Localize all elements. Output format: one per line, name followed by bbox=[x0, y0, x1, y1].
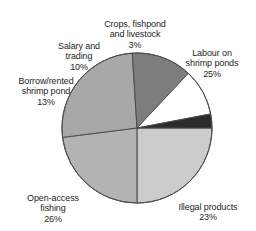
pie-label-value: 10% bbox=[40, 62, 118, 72]
pie-label-text: Salary and trading bbox=[58, 41, 100, 61]
pie-label-text: Labour on shrimp ponds bbox=[186, 48, 239, 68]
pie-label-text: Illegal products bbox=[179, 202, 238, 212]
pie-label-text: Open-access fishing bbox=[27, 193, 79, 213]
pie-label-illegal-products: Illegal products 23% bbox=[160, 192, 256, 231]
pie-label-value: 25% bbox=[168, 69, 256, 79]
pie-chart-figure: Crops, fishpond and livestock 3% Labour … bbox=[0, 0, 256, 231]
pie-label-open-access-fishing: Open-access fishing 26% bbox=[6, 183, 100, 231]
pie-label-value: 26% bbox=[6, 214, 100, 224]
pie-label-salary-and-trading: Salary and trading 10% bbox=[40, 31, 118, 82]
pie-label-labour-on-shrimp-ponds: Labour on shrimp ponds 25% bbox=[168, 38, 256, 89]
pie-label-value: 23% bbox=[160, 212, 256, 222]
pie-label-value: 13% bbox=[2, 97, 90, 107]
